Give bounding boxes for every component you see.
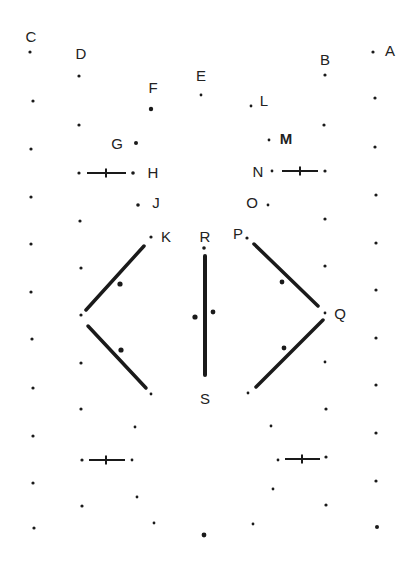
dot: [202, 533, 207, 538]
dot: [272, 488, 275, 491]
dot: [28, 50, 31, 53]
cross-marker: [87, 169, 126, 178]
point-label-n: N: [253, 164, 264, 179]
dot: [280, 280, 285, 285]
point-label-r: R: [200, 229, 211, 244]
dot: [374, 241, 377, 244]
point-label-f: F: [148, 80, 157, 95]
line-segment: [88, 326, 146, 388]
point-label-c: C: [26, 29, 37, 44]
point-label-o: O: [246, 195, 258, 210]
dot: [245, 236, 248, 239]
dot: [268, 139, 271, 142]
dot: [323, 264, 326, 267]
dot: [374, 479, 377, 482]
dot: [250, 105, 253, 108]
dot: [323, 217, 326, 220]
point-label-d: D: [76, 46, 87, 61]
point-label-h: H: [148, 165, 159, 180]
point-label-e: E: [196, 68, 206, 83]
dot: [375, 525, 379, 529]
dot: [323, 73, 326, 76]
dot: [149, 235, 152, 238]
dot: [29, 242, 32, 245]
dot: [323, 169, 326, 172]
dot: [277, 459, 280, 462]
dot: [32, 526, 35, 529]
dot: [31, 434, 34, 437]
point-label-l: L: [260, 93, 268, 108]
dot: [373, 96, 376, 99]
dot: [252, 523, 255, 526]
dot: [117, 281, 122, 286]
dot: [371, 50, 374, 53]
dot: [29, 195, 32, 198]
dot: [271, 170, 274, 173]
dot: [31, 386, 34, 389]
dot: [153, 522, 156, 525]
dot: [79, 407, 82, 410]
thick-line-segments: [86, 244, 323, 388]
point-label-q: Q: [334, 306, 346, 321]
point-label-g: G: [111, 136, 123, 151]
point-label-b: B: [320, 52, 330, 67]
dot: [136, 496, 139, 499]
point-label-j: J: [152, 195, 160, 210]
dot: [29, 147, 32, 150]
dot: [80, 504, 83, 507]
dot: [149, 107, 153, 111]
dot: [79, 313, 82, 316]
dot: [77, 171, 80, 174]
dot: [134, 141, 138, 145]
dot: [77, 123, 80, 126]
dot: [30, 337, 33, 340]
dot: [31, 481, 34, 484]
dot: [134, 426, 137, 429]
dot: [150, 393, 153, 396]
dot: [374, 336, 377, 339]
dot: [374, 193, 377, 196]
line-segment: [254, 244, 318, 306]
dot: [118, 347, 123, 352]
dot: [200, 94, 203, 97]
dot: [78, 219, 81, 222]
dot: [79, 361, 82, 364]
dot: [270, 425, 273, 428]
point-label-m: M: [280, 131, 293, 146]
dot: [80, 458, 83, 461]
cross-marker: [285, 455, 320, 464]
dot: [267, 204, 270, 207]
dot: [374, 431, 377, 434]
dot: [282, 346, 287, 351]
dot: [374, 383, 377, 386]
dot: [77, 74, 80, 77]
line-segment: [256, 320, 323, 387]
cross-marker: [282, 167, 318, 176]
dot: [247, 392, 250, 395]
dot: [324, 312, 327, 315]
dot: [373, 145, 376, 148]
dot: [192, 314, 197, 319]
dot: [324, 503, 327, 506]
point-label-k: K: [161, 229, 171, 244]
dot: [324, 407, 327, 410]
point-label-p: P: [233, 226, 243, 241]
point-label-a: A: [385, 43, 395, 58]
dot: [29, 290, 32, 293]
dot: [131, 171, 135, 175]
dot-diagram: [0, 0, 412, 578]
line-segment: [86, 246, 144, 310]
dot: [31, 99, 34, 102]
dot: [211, 310, 216, 315]
point-label-s: S: [200, 391, 210, 406]
dot: [322, 123, 325, 126]
dot: [136, 203, 140, 207]
dot: [131, 459, 134, 462]
dot: [324, 455, 327, 458]
dot: [324, 361, 327, 364]
dot: [79, 266, 82, 269]
dot: [374, 288, 377, 291]
cross-marker: [89, 456, 125, 465]
dot: [202, 246, 206, 250]
